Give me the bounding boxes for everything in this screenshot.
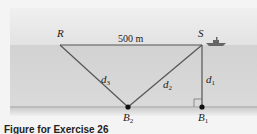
label-R: R <box>57 28 64 39</box>
label-S: S <box>198 28 204 39</box>
label-distance: 500 m <box>118 34 143 44</box>
point-B1 <box>199 104 204 109</box>
label-d1: d1 <box>206 74 215 87</box>
label-d2: d2 <box>163 79 172 92</box>
point-B2 <box>125 104 130 109</box>
label-d3: d3 <box>101 74 110 87</box>
water-region <box>10 45 257 108</box>
figure-caption: Figure for Exercise 26 <box>4 124 109 134</box>
label-B2: B2 <box>123 112 133 125</box>
label-B1: B1 <box>198 112 208 125</box>
